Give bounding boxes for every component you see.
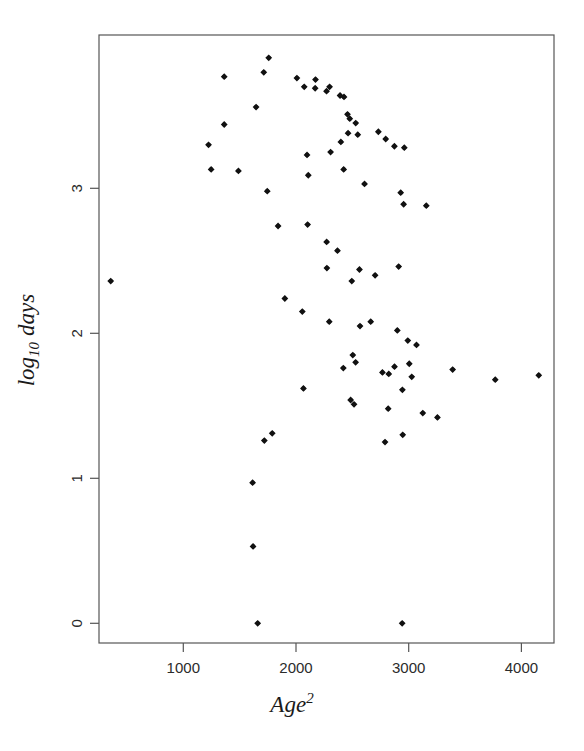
data-point-core xyxy=(327,85,331,89)
data-point-core xyxy=(305,153,309,157)
data-point-core xyxy=(267,56,271,60)
data-point-core xyxy=(493,378,497,382)
data-point-core xyxy=(327,320,331,324)
data-point-core xyxy=(407,362,411,366)
data-point-core xyxy=(251,481,255,485)
data-point-core xyxy=(348,117,352,121)
data-point-core xyxy=(397,265,401,269)
x-tick-label: 3000 xyxy=(392,659,425,676)
data-point-core xyxy=(387,372,391,376)
data-point-core xyxy=(295,76,299,80)
data-point-core xyxy=(401,433,405,437)
y-tick-label: 1 xyxy=(69,474,86,482)
y-tick-label: 3 xyxy=(69,184,86,192)
data-point-core xyxy=(349,398,353,402)
data-point-core xyxy=(329,150,333,154)
y-tick-label: 0 xyxy=(69,619,86,627)
data-point-core xyxy=(341,366,345,370)
y-tick-label: 2 xyxy=(69,329,86,337)
plot-frame xyxy=(99,35,554,643)
data-point-core xyxy=(276,224,280,228)
data-point-core xyxy=(537,373,541,377)
data-point-core xyxy=(373,273,377,277)
data-point-core xyxy=(342,95,346,99)
data-point-core xyxy=(313,77,317,81)
data-point-core xyxy=(256,621,260,625)
data-point-core xyxy=(376,130,380,134)
scatter-plot-figure: 1000200030004000 0123 Age2 log10days xyxy=(0,0,584,751)
x-axis-title: Age2 xyxy=(268,690,314,717)
data-point-core xyxy=(357,267,361,271)
data-point-core xyxy=(262,439,266,443)
data-point-core xyxy=(369,320,373,324)
data-point-core xyxy=(358,324,362,328)
data-point-core xyxy=(306,173,310,177)
data-point-core xyxy=(424,204,428,208)
data-point-core xyxy=(354,360,358,364)
data-point-core xyxy=(335,249,339,253)
data-point-core xyxy=(351,353,355,357)
y-axis-title: log10days xyxy=(14,294,42,387)
data-point-core xyxy=(354,121,358,125)
data-point-core xyxy=(384,137,388,141)
data-point-core xyxy=(392,365,396,369)
data-point-core xyxy=(380,370,384,374)
data-point-core xyxy=(306,222,310,226)
data-point-core xyxy=(339,140,343,144)
data-point-core xyxy=(352,402,356,406)
data-point-core xyxy=(345,112,349,116)
data-point-core xyxy=(414,343,418,347)
x-tick-label: 1000 xyxy=(167,659,200,676)
data-point-core xyxy=(400,621,404,625)
data-point-core xyxy=(350,279,354,283)
data-point-core xyxy=(421,411,425,415)
data-point-core xyxy=(109,279,113,283)
data-point-core xyxy=(395,328,399,332)
data-point-core xyxy=(265,189,269,193)
x-tick-label: 2000 xyxy=(279,659,312,676)
data-points-layer xyxy=(107,54,542,626)
data-point-core xyxy=(254,105,258,109)
data-point-core xyxy=(392,144,396,148)
data-point-core xyxy=(400,388,404,392)
data-point-core xyxy=(406,338,410,342)
data-point-core xyxy=(262,70,266,74)
data-point-core xyxy=(325,266,329,270)
data-point-core xyxy=(362,182,366,186)
data-point-core xyxy=(386,407,390,411)
data-point-core xyxy=(383,440,387,444)
data-point-core xyxy=(451,367,455,371)
data-point-core xyxy=(399,191,403,195)
data-point-core xyxy=(302,85,306,89)
x-tick-label: 4000 xyxy=(505,659,538,676)
data-point-core xyxy=(342,167,346,171)
data-point-core xyxy=(283,296,287,300)
data-point-core xyxy=(301,386,305,390)
data-point-core xyxy=(206,143,210,147)
data-point-core xyxy=(222,75,226,79)
data-point-core xyxy=(324,89,328,93)
data-point-core xyxy=(270,431,274,435)
data-point-core xyxy=(356,133,360,137)
data-point-core xyxy=(410,375,414,379)
y-axis-ticks: 0123 xyxy=(69,184,100,627)
data-point-core xyxy=(222,122,226,126)
data-point-core xyxy=(251,544,255,548)
data-point-core xyxy=(300,309,304,313)
data-point-core xyxy=(313,86,317,90)
x-axis-ticks: 1000200030004000 xyxy=(167,643,538,676)
data-point-core xyxy=(435,415,439,419)
data-point-core xyxy=(209,167,213,171)
plot-canvas: 1000200030004000 0123 Age2 log10days xyxy=(0,0,584,751)
data-point-core xyxy=(402,202,406,206)
data-point-core xyxy=(402,146,406,150)
data-point-core xyxy=(325,240,329,244)
data-point-core xyxy=(236,169,240,173)
data-point-core xyxy=(346,131,350,135)
